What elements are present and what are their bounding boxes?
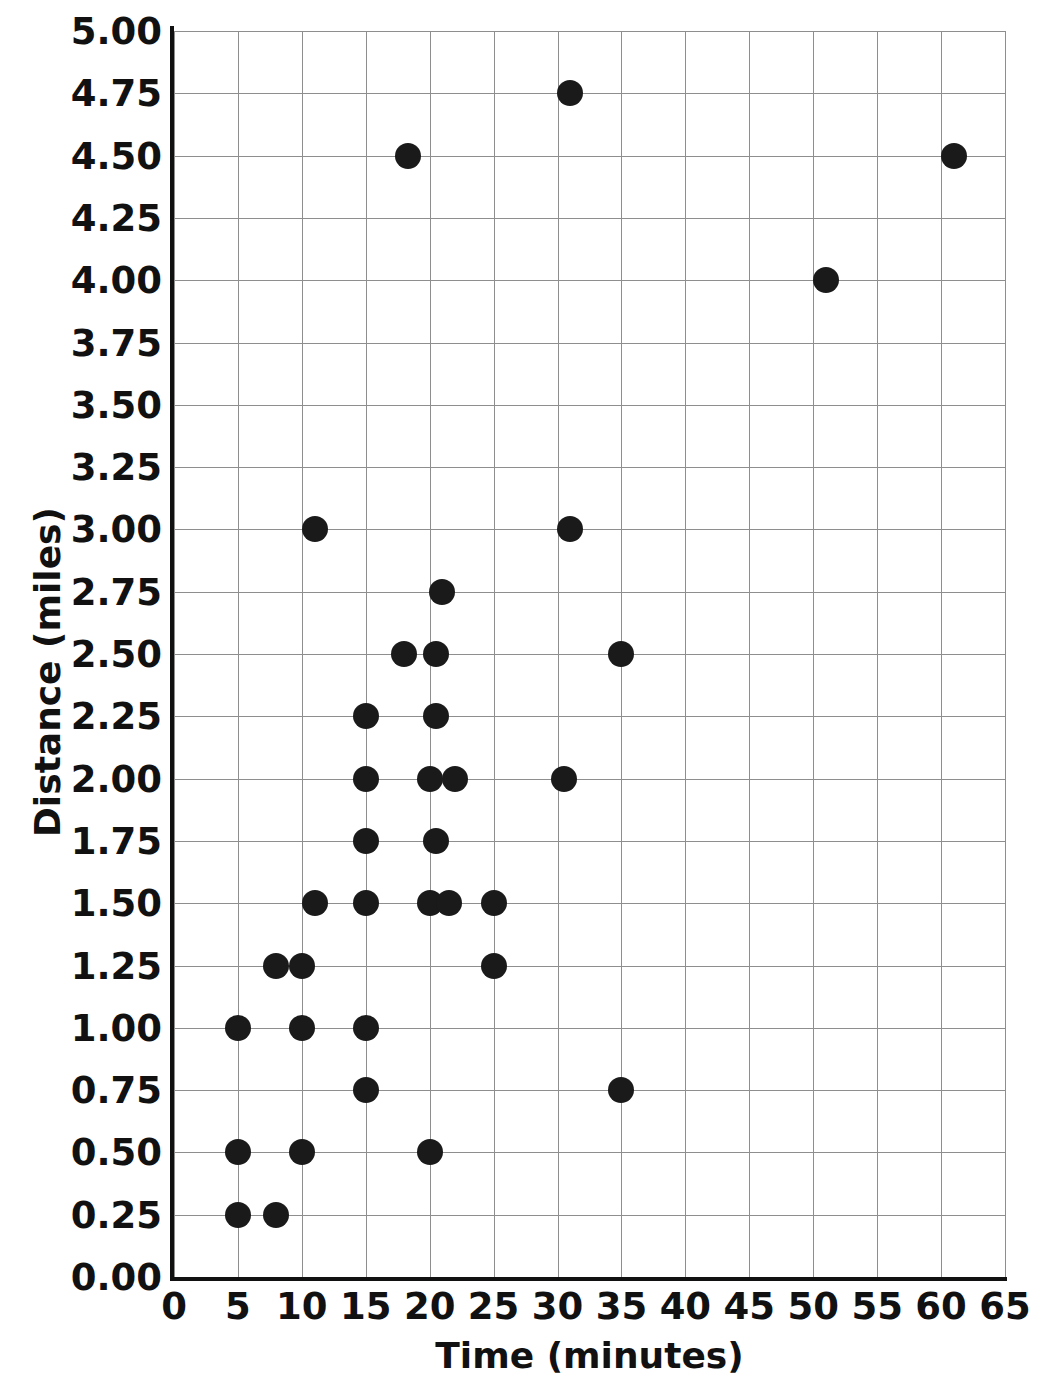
data-point	[302, 516, 328, 542]
data-point	[353, 828, 379, 854]
gridline-horizontal	[174, 592, 1005, 593]
y-axis-tick-label: 2.75	[0, 573, 162, 610]
y-axis-tick-labels: 0.000.250.500.751.001.251.501.752.002.25…	[0, 0, 162, 1387]
gridline-horizontal	[174, 654, 1005, 655]
data-point	[353, 766, 379, 792]
data-point	[417, 766, 443, 792]
data-point	[225, 1202, 251, 1228]
data-point	[423, 828, 449, 854]
data-point	[225, 1139, 251, 1165]
x-axis-tick-label: 55	[851, 1288, 903, 1325]
data-point	[353, 703, 379, 729]
gridline-horizontal	[174, 156, 1005, 157]
y-axis-tick-label: 5.00	[0, 13, 162, 50]
y-axis-tick-label: 1.25	[0, 947, 162, 984]
data-point	[557, 516, 583, 542]
gridline-horizontal	[174, 405, 1005, 406]
y-axis-tick-label: 3.00	[0, 511, 162, 548]
data-point	[423, 703, 449, 729]
data-point	[289, 953, 315, 979]
plot-area	[174, 31, 1005, 1277]
y-axis-tick-label: 1.75	[0, 822, 162, 859]
x-axis-tick-label: 10	[276, 1288, 328, 1325]
y-axis-tick-label: 0.75	[0, 1072, 162, 1109]
y-axis-tick-label: 4.25	[0, 199, 162, 236]
gridline-vertical	[1005, 31, 1006, 1277]
gridline-horizontal	[174, 529, 1005, 530]
gridline-horizontal	[174, 93, 1005, 94]
y-axis-tick-label: 4.00	[0, 262, 162, 299]
x-axis-tick-label: 60	[915, 1288, 967, 1325]
y-axis-line	[170, 26, 174, 1281]
data-point	[436, 890, 462, 916]
x-axis-tick-label: 40	[660, 1288, 712, 1325]
gridline-horizontal	[174, 280, 1005, 281]
data-point	[395, 143, 421, 169]
data-point	[289, 1015, 315, 1041]
x-axis-title: Time (minutes)	[174, 1338, 1005, 1374]
gridline-horizontal	[174, 779, 1005, 780]
y-axis-tick-label: 4.75	[0, 75, 162, 112]
gridline-horizontal	[174, 343, 1005, 344]
gridline-horizontal	[174, 467, 1005, 468]
x-axis-tick-label: 30	[532, 1288, 584, 1325]
data-point	[608, 641, 634, 667]
data-point	[551, 766, 577, 792]
x-axis-tick-label: 50	[787, 1288, 839, 1325]
scatter-chart: 0.000.250.500.751.001.251.501.752.002.25…	[0, 0, 1037, 1387]
data-point	[263, 953, 289, 979]
data-point	[423, 641, 449, 667]
data-point	[353, 1077, 379, 1103]
data-point	[391, 641, 417, 667]
x-axis-tick-label: 25	[468, 1288, 520, 1325]
x-axis-tick-label: 65	[979, 1288, 1031, 1325]
data-point	[417, 1139, 443, 1165]
gridline-horizontal	[174, 903, 1005, 904]
y-axis-tick-label: 0.50	[0, 1134, 162, 1171]
data-point	[289, 1139, 315, 1165]
y-axis-tick-label: 1.50	[0, 885, 162, 922]
data-point	[557, 80, 583, 106]
gridline-horizontal	[174, 716, 1005, 717]
gridline-horizontal	[174, 841, 1005, 842]
data-point	[813, 267, 839, 293]
x-axis-tick-label: 0	[161, 1288, 187, 1325]
data-point	[941, 143, 967, 169]
y-axis-title: Distance (miles)	[30, 362, 66, 982]
data-point	[442, 766, 468, 792]
y-axis-tick-label: 4.50	[0, 137, 162, 174]
y-axis-tick-label: 3.75	[0, 324, 162, 361]
y-axis-tick-label: 3.50	[0, 386, 162, 423]
y-axis-tick-label: 2.25	[0, 698, 162, 735]
x-axis-tick-label: 20	[404, 1288, 456, 1325]
data-point	[429, 579, 455, 605]
data-point	[608, 1077, 634, 1103]
y-axis-tick-label: 2.00	[0, 760, 162, 797]
x-axis-tick-label: 35	[596, 1288, 648, 1325]
y-axis-tick-label: 2.50	[0, 636, 162, 673]
y-axis-tick-label: 1.00	[0, 1009, 162, 1046]
y-axis-tick-label: 0.25	[0, 1196, 162, 1233]
data-point	[302, 890, 328, 916]
x-axis-tick-label: 5	[225, 1288, 251, 1325]
gridline-horizontal	[174, 218, 1005, 219]
x-axis-tick-label: 45	[724, 1288, 776, 1325]
x-axis-line	[170, 1277, 1007, 1281]
gridline-horizontal	[174, 1215, 1005, 1216]
data-point	[481, 953, 507, 979]
data-point	[263, 1202, 289, 1228]
y-axis-tick-label: 3.25	[0, 449, 162, 486]
x-axis-tick-label: 15	[340, 1288, 392, 1325]
data-point	[481, 890, 507, 916]
data-point	[353, 890, 379, 916]
data-point	[353, 1015, 379, 1041]
gridline-horizontal	[174, 31, 1005, 32]
gridline-horizontal	[174, 1090, 1005, 1091]
data-point	[225, 1015, 251, 1041]
